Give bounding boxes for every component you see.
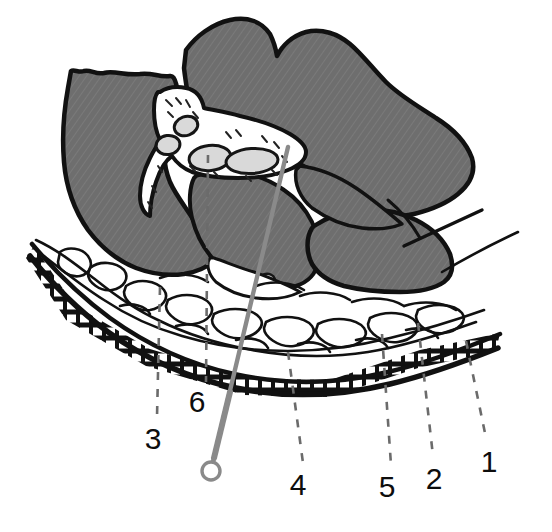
anatomical-figure: 1 2 3 4 5 6 (0, 0, 552, 532)
label-4: 4 (290, 468, 307, 501)
label-1: 1 (481, 445, 498, 478)
label-6: 6 (189, 385, 206, 418)
diagram-canvas: 1 2 3 4 5 6 (0, 0, 552, 532)
needle-handle-ring[interactable] (202, 462, 220, 480)
label-5: 5 (379, 470, 396, 503)
label-2: 2 (426, 462, 443, 495)
label-3: 3 (145, 422, 162, 455)
